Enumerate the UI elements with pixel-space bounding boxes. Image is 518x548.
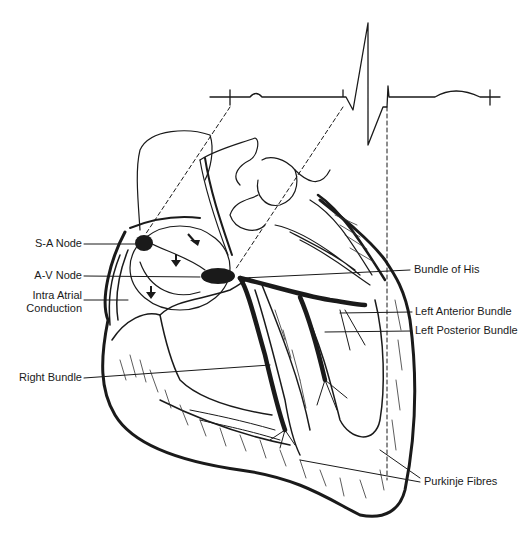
label-left-posterior-bundle: Left Posterior Bundle xyxy=(415,324,518,337)
label-right-bundle: Right Bundle xyxy=(8,371,82,384)
ecg-trace xyxy=(210,23,500,145)
myocardium-hatching xyxy=(120,215,402,498)
sa-node-marker xyxy=(135,235,153,251)
label-intra-atrial: Intra Atrial xyxy=(10,289,82,302)
label-purkinje-fibres: Purkinje Fibres xyxy=(424,475,497,488)
purkinje-branches xyxy=(190,310,365,448)
label-bundle-of-his: Bundle of His xyxy=(414,263,479,276)
label-left-anterior-bundle: Left Anterior Bundle xyxy=(415,305,512,318)
av-node-marker xyxy=(201,268,235,284)
label-conduction: Conduction xyxy=(10,302,82,315)
label-av-node: A-V Node xyxy=(28,269,82,282)
label-sa-node: S-A Node xyxy=(28,237,82,250)
